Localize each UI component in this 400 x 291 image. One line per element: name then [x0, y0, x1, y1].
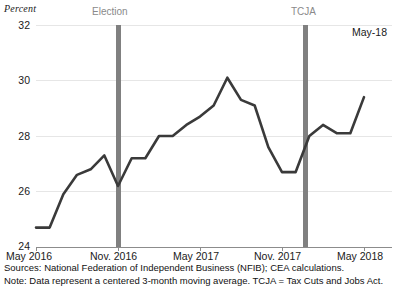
data-line	[36, 78, 364, 228]
footnote-sources: Sources: National Federation of Independ…	[4, 262, 398, 275]
footnote-note: Note: Data represent a centered 3-month …	[4, 275, 398, 288]
chart-container: Percent 32 30 28 26 24 May 2016 Nov. 201…	[0, 0, 400, 291]
footnotes: Sources: National Federation of Independ…	[4, 262, 398, 287]
series-layer	[0, 0, 400, 291]
